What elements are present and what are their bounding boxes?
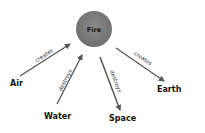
node-earth[interactable]: Earth (157, 85, 182, 94)
edge-fire-destroys-space[interactable]: destroys (100, 57, 123, 110)
edge-label-fire-earth: creates (133, 50, 153, 66)
edge-label-fire-space: destroys (108, 69, 123, 94)
fire-label: Fire (87, 26, 102, 34)
node-air[interactable]: Air (10, 79, 23, 88)
arrow-water-to-fire (57, 55, 82, 104)
edge-label-water-fire: destroys (57, 68, 74, 92)
edge-air-creates-fire[interactable]: creates (20, 44, 70, 76)
edge-fire-creates-earth[interactable]: creates (116, 48, 164, 81)
node-space[interactable]: Space (109, 114, 137, 123)
relationship-diagram: Fire creates destroys destroys creates A… (0, 0, 205, 133)
node-water[interactable]: Water (44, 112, 71, 121)
node-fire[interactable]: Fire (76, 11, 112, 47)
edge-water-destroys-fire[interactable]: destroys (57, 55, 82, 104)
arrow-air-to-fire (20, 44, 70, 76)
